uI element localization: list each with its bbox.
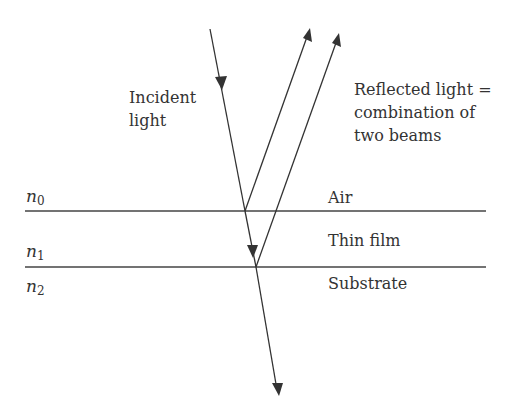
substrate-label: Substrate xyxy=(328,272,407,295)
reflected-label: Reflected light = combination of two bea… xyxy=(354,78,492,147)
diagram-lines xyxy=(0,0,513,414)
reflected-arrowhead-1-icon xyxy=(303,28,312,42)
reflected-beam-2 xyxy=(256,40,337,267)
incident-label-line2: light xyxy=(129,109,196,132)
incident-label-line1: Incident xyxy=(129,86,196,109)
reflected-label-line3: two beams xyxy=(354,124,492,147)
reflected-label-line1: Reflected light = xyxy=(354,78,492,101)
thin-film-label: Thin film xyxy=(328,229,400,252)
incident-ray xyxy=(210,29,245,211)
refracted-ray xyxy=(245,211,256,267)
transmitted-ray xyxy=(256,267,277,390)
refracted-arrowhead-icon xyxy=(247,245,258,258)
n1-label: n1 xyxy=(26,240,45,268)
transmitted-arrowhead-icon xyxy=(272,383,283,396)
air-label: Air xyxy=(328,186,352,209)
reflected-beam-1 xyxy=(245,34,308,211)
reflected-arrowhead-2-icon xyxy=(332,33,341,47)
incident-arrowhead-icon xyxy=(215,76,227,90)
n2-label: n2 xyxy=(26,275,45,303)
incident-label: Incident light xyxy=(129,86,196,132)
n0-label: n0 xyxy=(26,185,45,213)
thin-film-diagram: Incident light Reflected light = combina… xyxy=(0,0,513,414)
reflected-label-line2: combination of xyxy=(354,101,492,124)
